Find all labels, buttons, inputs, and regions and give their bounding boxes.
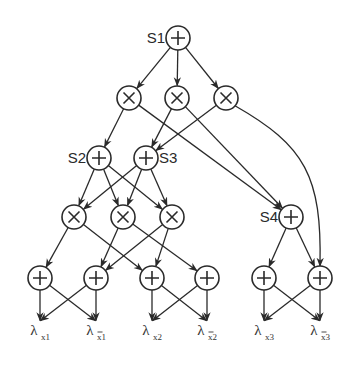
svg-text:λ: λ [254, 322, 262, 338]
node-label: S1 [147, 29, 165, 46]
sum-node-l5 [252, 266, 276, 290]
svg-text:x2: x2 [208, 332, 217, 342]
sum-node-s4: S4 [260, 205, 303, 229]
product-node-p3 [214, 86, 238, 110]
product-node-p1 [117, 86, 141, 110]
svg-text:x3: x3 [321, 332, 331, 342]
edge-l3-lnx2 [161, 285, 206, 320]
sum-node-l1 [28, 266, 52, 290]
indicator-lnx2: λx2 [197, 322, 217, 342]
svg-text:x1: x1 [97, 332, 106, 342]
sum-node-s2: S2 [68, 146, 111, 170]
edge-l5-lnx3 [274, 285, 320, 320]
edge-q2-l4 [133, 224, 197, 271]
svg-text:λ: λ [197, 322, 205, 338]
svg-text:x3: x3 [265, 332, 275, 342]
indicator-lnx3: λx3 [310, 322, 330, 342]
edge-s2-q3 [108, 166, 162, 210]
edge-s1-p2 [177, 50, 178, 86]
edge-l1-lnx1 [50, 285, 96, 320]
spn-diagram: S1S2S3S4 λx1λx1λx2λx2λx3λx3 [0, 0, 354, 372]
indicator-lnx1: λx1 [86, 322, 106, 342]
sum-node-l3 [140, 266, 164, 290]
edge-l4-lx2 [152, 285, 197, 320]
product-node-q2 [111, 205, 135, 229]
indicator-lx3: λx3 [254, 322, 274, 342]
product-node-p2 [165, 86, 189, 110]
product-node-q3 [160, 205, 184, 229]
node-label: S3 [159, 149, 177, 166]
edge-p3-s3 [156, 105, 216, 150]
edge-s2-q1 [79, 169, 94, 205]
edge-l2-lx1 [40, 285, 86, 320]
sum-node-l6 [308, 266, 332, 290]
node-label: S4 [260, 208, 278, 225]
edge-s1-p1 [137, 47, 171, 88]
edge-q2-l2 [101, 228, 118, 267]
sum-node-s3: S3 [134, 146, 177, 170]
edge-s3-q3 [151, 169, 167, 206]
edge-s4-l6 [296, 228, 314, 267]
edge-q3-l3 [156, 228, 168, 266]
edge-q1-l1 [46, 227, 68, 267]
svg-text:x2: x2 [153, 332, 162, 342]
edge-s1-p3 [185, 47, 218, 88]
indicator-lx2: λx2 [142, 322, 162, 342]
edge-p1-s2 [105, 109, 124, 147]
nodes-layer: S1S2S3S4 [28, 26, 332, 290]
svg-text:λ: λ [142, 322, 150, 338]
svg-text:λ: λ [310, 322, 318, 338]
svg-text:x1: x1 [41, 332, 50, 342]
edge-p2-s4 [185, 107, 282, 208]
edge-s3-q2 [128, 169, 142, 205]
product-node-q1 [62, 205, 86, 229]
svg-text:λ: λ [86, 322, 94, 338]
sum-node-l4 [195, 266, 219, 290]
node-label: S2 [68, 149, 86, 166]
sum-node-s1: S1 [147, 26, 190, 50]
sum-node-l2 [84, 266, 108, 290]
indicator-lx1: λx1 [30, 322, 50, 342]
edge-l6-lx3 [264, 285, 310, 320]
indicators-layer: λx1λx1λx2λx2λx3λx3 [30, 322, 330, 342]
svg-text:λ: λ [30, 322, 38, 338]
edge-s4-l5 [269, 228, 286, 267]
